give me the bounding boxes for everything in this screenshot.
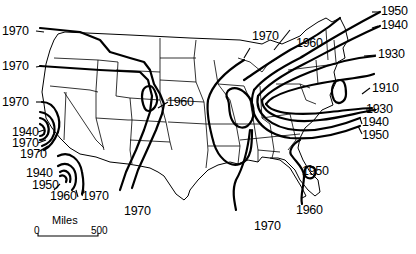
scale-bar-start: 0 [34,225,40,236]
contour-label-1970: 1970 [2,25,29,38]
contour-label-1940: 1940 [381,19,408,32]
contour-label-1910: 1910 [372,82,399,95]
isochrone-lines [40,12,380,210]
scale-bar [38,233,98,236]
contour-label-1950: 1950 [362,129,389,142]
contour-label-1930: 1930 [378,48,405,61]
contour-label-1960: 1960 [167,96,194,109]
contour-label-1970: 1970 [124,205,151,218]
contour-label-1970: 1970 [2,60,29,73]
contour-label-1950: 1950 [381,5,408,18]
contour-label-1970: 1970 [252,30,279,43]
contour-label-1970: 1970 [20,148,47,161]
contour-label-1930: 1930 [366,103,393,116]
scale-bar-title: Miles [52,214,78,226]
scale-bar-end: 500 [91,225,108,236]
contour-label-1950: 1950 [302,165,329,178]
contour-label-1970: 1970 [254,220,281,233]
contour-label-1970: 1970 [82,190,109,203]
contour-label-1940: 1940 [362,116,389,129]
contour-label-1960: 1960 [50,190,77,203]
contour-label-1960: 1960 [296,37,323,50]
contour-label-1970: 1970 [2,96,29,109]
contour-label-1960: 1960 [296,204,323,217]
